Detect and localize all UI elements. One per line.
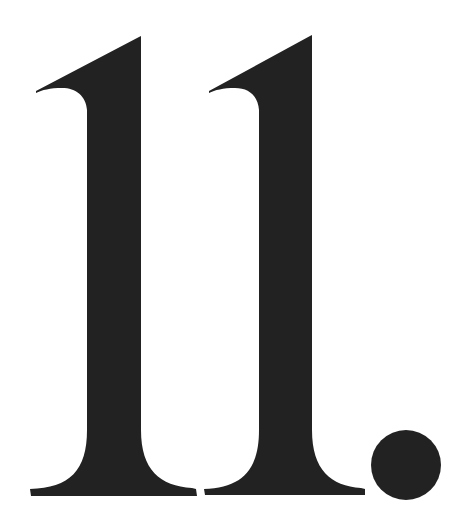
digit-one-second bbox=[204, 35, 365, 495]
period-dot bbox=[371, 430, 441, 500]
digit-one-first bbox=[30, 36, 197, 496]
numeral-eleven-graphic bbox=[0, 0, 468, 528]
